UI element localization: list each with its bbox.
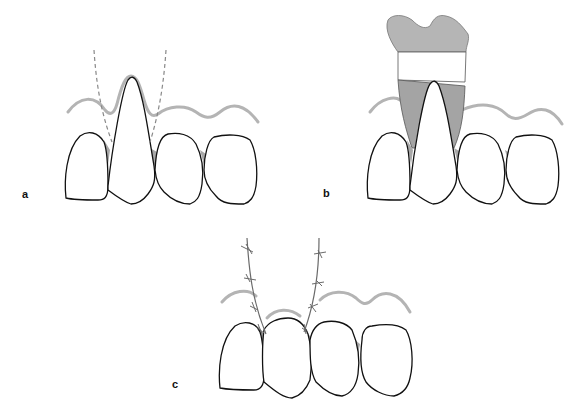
panel-c: [219, 238, 412, 398]
suture-line-left: [247, 238, 266, 334]
tooth-central-right: [155, 133, 203, 204]
gingiva-line: [222, 291, 256, 302]
gingiva-line: [267, 310, 300, 318]
figure-canvas: a b c: [0, 0, 582, 409]
dental-graft-diagram: [0, 0, 582, 409]
tooth-central-covered: [263, 318, 312, 398]
tooth-lateral-left: [219, 323, 264, 390]
gingiva-line: [462, 105, 562, 124]
tooth-central-right: [457, 133, 505, 204]
panel-a: [65, 50, 258, 204]
tooth-lateral-left: [367, 133, 410, 200]
tooth-lateral-right: [204, 135, 257, 204]
panel-label-c: c: [172, 378, 178, 390]
gingiva-line: [320, 292, 410, 312]
gingiva-line: [370, 98, 400, 112]
suture-line-right: [304, 238, 319, 332]
graft-top: [387, 15, 469, 52]
gingiva-line: [68, 76, 258, 122]
tooth-lateral-right: [361, 325, 412, 396]
panel-label-a: a: [22, 188, 28, 200]
tooth-central-right: [310, 321, 359, 396]
tooth-central-exposed-root: [108, 77, 155, 204]
suture-knots-right: [302, 250, 326, 334]
incision-line-right: [150, 50, 166, 142]
graft-white-band: [398, 52, 466, 82]
tooth-lateral-left: [65, 133, 108, 200]
incision-line-left: [94, 50, 112, 142]
tooth-lateral-right: [506, 135, 559, 204]
panel-label-b: b: [323, 187, 330, 199]
panel-b: [367, 15, 562, 204]
